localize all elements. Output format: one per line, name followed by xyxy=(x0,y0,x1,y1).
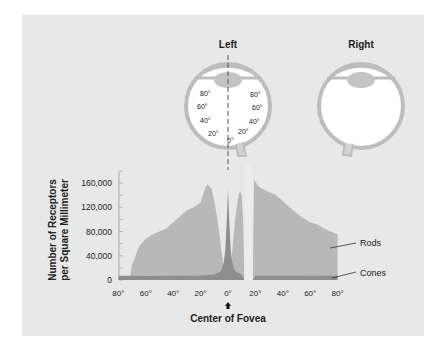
y-tick-label: 0 xyxy=(107,275,112,285)
x-tick-label: 60° xyxy=(304,289,316,298)
left-eye-diagram: Left 80° 60° 40° 20° 80° 60° 40° 20° 0° xyxy=(186,39,270,170)
y-tick-label: 160,000 xyxy=(81,178,112,188)
up-arrow-icon xyxy=(225,302,231,309)
x-tick-label: 40° xyxy=(277,289,289,298)
right-eye-title: Right xyxy=(348,39,374,50)
y-tick-label: 120,000 xyxy=(81,202,112,212)
right-eye-diagram: Right xyxy=(319,39,403,156)
x-tick-label: 80° xyxy=(332,289,344,298)
rods-label: Rods xyxy=(360,238,382,248)
left-eye-title: Left xyxy=(219,39,238,50)
rods-area xyxy=(129,180,337,280)
receptor-density-figure: Left 80° 60° 40° 20° 80° 60° 40° 20° 0° … xyxy=(0,0,447,356)
angle-label: 0° xyxy=(227,137,234,144)
y-axis-title-line1: Number of Receptors xyxy=(47,179,58,281)
y-tick-labels: 040,00080,000120,000160,000 xyxy=(81,178,112,285)
blind-spot-gap xyxy=(244,165,252,280)
x-tick-label: 0° xyxy=(224,289,232,298)
angle-label: 80° xyxy=(250,91,261,98)
x-tick-label: 60° xyxy=(140,289,152,298)
x-tick-label: 80° xyxy=(112,289,124,298)
x-tick-labels: 80°60°40°20°0°20°40°60°80° xyxy=(112,289,343,298)
right-lens xyxy=(347,72,375,88)
y-axis-title-line2: per Square Millimeter xyxy=(59,179,70,281)
y-tick-label: 40,000 xyxy=(86,251,112,261)
receptor-chart: 040,00080,000120,000160,000 80°60°40°20°… xyxy=(47,165,387,324)
angle-label: 60° xyxy=(252,104,263,111)
angle-label: 40° xyxy=(249,118,260,125)
y-ticks xyxy=(119,171,123,280)
y-tick-label: 80,000 xyxy=(86,227,112,237)
angle-label: 20° xyxy=(208,130,219,137)
x-tick-label: 20° xyxy=(249,289,261,298)
angle-label: 40° xyxy=(200,117,211,124)
x-tick-label: 20° xyxy=(195,289,207,298)
angle-label: 60° xyxy=(197,103,208,110)
angle-label: 80° xyxy=(200,90,211,97)
x-axis-title: Center of Fovea xyxy=(190,313,266,324)
right-optic-nerve xyxy=(343,143,353,156)
cones-label: Cones xyxy=(360,268,387,278)
angle-label: 20° xyxy=(238,128,249,135)
x-tick-label: 40° xyxy=(167,289,179,298)
